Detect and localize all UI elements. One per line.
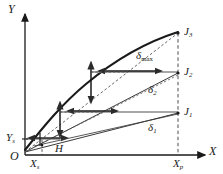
j3-subscript: 3 (189, 31, 192, 38)
deviation-label-2: δ2 (148, 84, 157, 96)
x-start-symbol: X (30, 157, 37, 169)
figure-canvas: Y X O Ys Xs Xp H J3 J2 J1 δmax δ2 δ1 (0, 0, 223, 174)
x-end-symbol: X (173, 157, 180, 169)
point-label-j3: J3 (184, 26, 192, 38)
x-end-label: Xp (173, 158, 183, 170)
j1-subscript: 1 (189, 111, 192, 118)
point-label-j2: J2 (184, 66, 192, 78)
j2-marker (176, 71, 179, 74)
delta-2-subscript: 2 (153, 89, 156, 96)
j3-marker (176, 31, 179, 34)
y-start-subscript: s (12, 137, 15, 144)
y-axis-label: Y (8, 3, 15, 15)
deviation-label-max: δmax (136, 50, 153, 62)
origin-label: O (10, 150, 19, 162)
x-start-subscript: s (37, 163, 40, 170)
h-point-label: H (55, 143, 63, 154)
span-arrow-group (34, 71, 156, 138)
x-axis-label: X (209, 145, 216, 157)
y-start-label: Ys (6, 132, 15, 144)
deviation-label-1: δ1 (148, 122, 157, 134)
x-start-label: Xs (30, 158, 39, 170)
origin-chord-b (42, 75, 178, 143)
h-marker (41, 144, 44, 147)
delta-1-subscript: 1 (153, 127, 156, 134)
construction-line-group (42, 33, 178, 155)
point-label-j1: J1 (184, 106, 192, 118)
delta-max-subscript: max (141, 55, 153, 62)
x-end-subscript: p (180, 163, 183, 170)
j1-marker (176, 111, 179, 114)
j2-subscript: 2 (189, 71, 192, 78)
